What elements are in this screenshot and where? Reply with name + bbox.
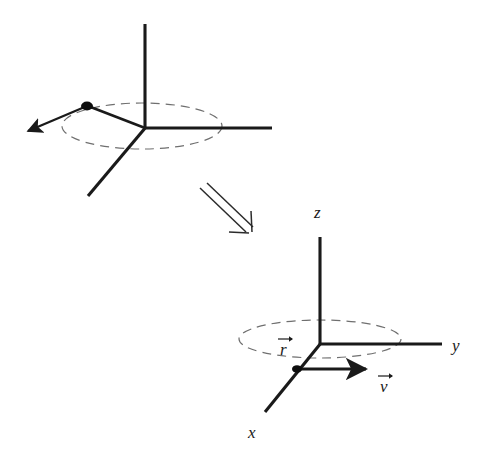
bottom-x-axis	[265, 343, 321, 412]
bottom-panel-corotating-frame: z y x r v	[239, 203, 460, 442]
bottom-particle-dot	[292, 365, 302, 373]
velocity-vector-letter: v	[380, 377, 388, 396]
y-axis-label: y	[450, 336, 460, 355]
radius-vector-label: r	[278, 336, 293, 359]
implies-arrow	[200, 183, 253, 233]
top-radius-segment	[88, 106, 145, 128]
top-x-axis	[88, 127, 146, 196]
radius-vector-letter: r	[280, 340, 287, 359]
top-particle-dot	[81, 102, 93, 111]
physics-diagram-figure: z y x r v	[0, 0, 500, 462]
z-axis-label: z	[313, 203, 321, 222]
x-axis-label: x	[247, 423, 256, 442]
top-panel-tilted-frame	[28, 24, 272, 196]
top-velocity-arrow	[28, 106, 87, 131]
radius-vector-accent-head	[289, 336, 293, 342]
velocity-vector-accent-head	[389, 373, 393, 379]
velocity-vector-label: v	[378, 373, 393, 396]
diagram-canvas: z y x r v	[0, 0, 500, 462]
